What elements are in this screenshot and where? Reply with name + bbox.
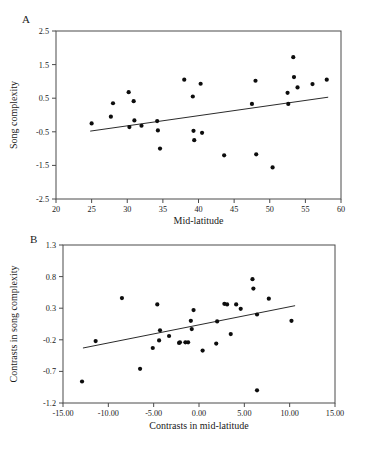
data-point — [127, 90, 131, 94]
y-axis-title: Contrasts in song complexity — [8, 266, 19, 383]
data-point — [325, 78, 329, 82]
figure-container: A 202530354045505560-2.5-1.5-0.50.51.52.… — [0, 0, 365, 452]
data-point — [155, 302, 159, 306]
panel-a-plot: 202530354045505560-2.5-1.5-0.50.51.52.5M… — [0, 0, 365, 226]
data-point — [199, 82, 203, 86]
data-point — [214, 341, 218, 345]
data-point — [254, 152, 258, 156]
regression-line — [90, 97, 328, 131]
data-point — [109, 115, 113, 119]
data-point — [157, 338, 161, 342]
data-point — [310, 82, 314, 86]
data-point — [191, 308, 195, 312]
data-point — [192, 138, 196, 142]
data-point — [120, 296, 124, 300]
data-point — [182, 78, 186, 82]
panel-b-plot: -15.00-10.00-5.000.005.0010.0015.00-1.2-… — [0, 226, 365, 452]
x-tick-label: 25 — [88, 205, 96, 214]
x-tick-label: 50 — [266, 205, 274, 214]
x-tick-label: 5.00 — [237, 409, 251, 418]
data-point — [215, 319, 219, 323]
data-point — [225, 302, 229, 306]
data-point — [251, 287, 255, 291]
data-point — [190, 327, 194, 331]
data-point — [90, 121, 94, 125]
data-point — [250, 102, 254, 106]
data-point — [155, 119, 159, 123]
panel-b: B -15.00-10.00-5.000.005.0010.0015.00-1.… — [0, 226, 365, 452]
data-point — [286, 102, 290, 106]
data-point — [222, 153, 226, 157]
y-tick-label: 1.3 — [46, 241, 56, 250]
data-point — [186, 340, 190, 344]
data-point — [271, 165, 275, 169]
data-point — [111, 101, 115, 105]
y-tick-label: 2.5 — [39, 27, 49, 36]
y-tick-label: -2.5 — [36, 195, 49, 204]
data-point — [200, 131, 204, 135]
data-point — [139, 124, 143, 128]
data-point — [267, 297, 271, 301]
data-point — [191, 94, 195, 98]
data-point — [156, 128, 160, 132]
data-point — [127, 125, 131, 129]
data-point — [191, 129, 195, 133]
data-point — [285, 91, 289, 95]
data-point — [132, 118, 136, 122]
y-tick-label: 0.5 — [39, 94, 49, 103]
data-point — [201, 348, 205, 352]
x-tick-label: -5.00 — [145, 409, 162, 418]
data-point — [94, 339, 98, 343]
data-point — [189, 319, 193, 323]
data-point — [229, 332, 233, 336]
data-point — [151, 346, 155, 350]
data-point — [291, 55, 295, 59]
y-tick-label: -0.5 — [36, 128, 49, 137]
y-tick-label: 0.8 — [46, 273, 56, 282]
y-tick-label: -1.5 — [36, 161, 49, 170]
x-tick-label: 55 — [301, 205, 309, 214]
x-tick-label: -15.00 — [52, 409, 73, 418]
data-point — [178, 340, 182, 344]
panel-a: A 202530354045505560-2.5-1.5-0.50.51.52.… — [0, 0, 365, 226]
x-axis-title: Contrasts in mid-latitude — [149, 420, 249, 431]
x-tick-label: 0.00 — [192, 409, 206, 418]
data-point — [234, 302, 238, 306]
data-point — [239, 307, 243, 311]
x-tick-label: 15.00 — [326, 409, 344, 418]
y-tick-label: -1.2 — [43, 399, 56, 408]
x-tick-label: 45 — [230, 205, 238, 214]
y-tick-label: 0.3 — [46, 304, 56, 313]
y-tick-label: 1.5 — [39, 61, 49, 70]
data-point — [250, 277, 254, 281]
data-point — [132, 99, 136, 103]
data-point — [253, 79, 257, 83]
x-tick-label: -10.00 — [98, 409, 119, 418]
x-tick-label: 40 — [194, 205, 202, 214]
data-point — [292, 75, 296, 79]
data-point — [295, 85, 299, 89]
x-tick-label: 30 — [123, 205, 131, 214]
data-point — [167, 334, 171, 338]
x-axis-title: Mid-latitude — [174, 215, 225, 226]
data-point — [80, 379, 84, 383]
x-tick-label: 20 — [52, 205, 60, 214]
data-point — [289, 319, 293, 323]
data-point — [255, 312, 259, 316]
y-tick-label: -0.7 — [43, 367, 56, 376]
x-tick-label: 60 — [337, 205, 345, 214]
data-point — [158, 147, 162, 151]
x-tick-label: 35 — [159, 205, 167, 214]
y-axis-title: Song complexity — [8, 81, 19, 149]
x-tick-label: 10.00 — [280, 409, 298, 418]
data-point — [158, 328, 162, 332]
data-point — [138, 367, 142, 371]
data-point — [255, 388, 259, 392]
y-tick-label: -0.2 — [43, 336, 56, 345]
